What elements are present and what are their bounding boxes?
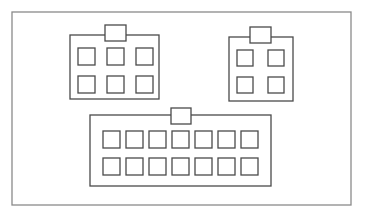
pin-cavity [78,48,95,65]
pin-cavity [136,76,153,93]
connectors-group [70,25,293,186]
connector-diagram [0,0,365,216]
pin-cavity [103,131,120,148]
pin-cavity [136,48,153,65]
pin-cavity [172,158,189,175]
pin-cavity [241,158,258,175]
connector-latch-tab [105,25,126,41]
pin-cavity [268,50,284,66]
pin-cavity [172,131,189,148]
pin-cavity [268,77,284,93]
connector-4-pin [229,27,293,101]
pin-cavity [195,131,212,148]
pin-cavity [126,158,143,175]
pin-cavity [237,50,253,66]
pin-cavity [107,76,124,93]
connector-latch-tab [171,108,191,124]
connector-latch-tab [250,27,271,43]
pin-cavity [107,48,124,65]
connector-body [70,35,159,99]
pin-cavity [218,131,235,148]
pin-cavity [237,77,253,93]
pin-cavity [126,131,143,148]
pin-cavity [241,131,258,148]
connector-6-pin [70,25,159,99]
pin-cavity [195,158,212,175]
pin-cavity [149,131,166,148]
pin-cavity [149,158,166,175]
pin-cavity [218,158,235,175]
pin-cavity [103,158,120,175]
pin-cavity [78,76,95,93]
connector-14-pin [90,108,271,186]
